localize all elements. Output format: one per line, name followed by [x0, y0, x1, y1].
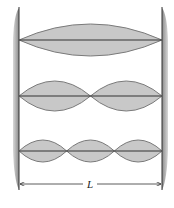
mode-third-harmonic — [19, 140, 162, 162]
standing-wave-diagram: L — [0, 0, 174, 208]
right-wall — [162, 7, 168, 190]
length-label: L — [86, 178, 93, 190]
mode-second-harmonic — [19, 81, 162, 111]
mode-fundamental — [19, 24, 162, 56]
left-wall — [13, 7, 19, 190]
length-dimension: L — [20, 178, 161, 190]
standing-wave-modes — [19, 24, 162, 162]
